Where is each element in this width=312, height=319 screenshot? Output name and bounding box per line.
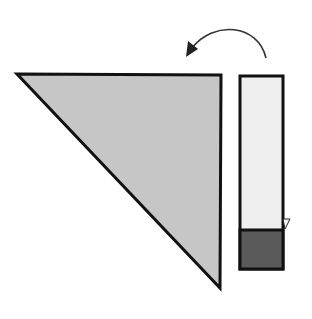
triangle-shape	[17, 74, 221, 288]
strip-dark-section	[240, 230, 283, 269]
rotate-arrow-icon	[192, 29, 266, 58]
folding-diagram	[0, 0, 312, 319]
